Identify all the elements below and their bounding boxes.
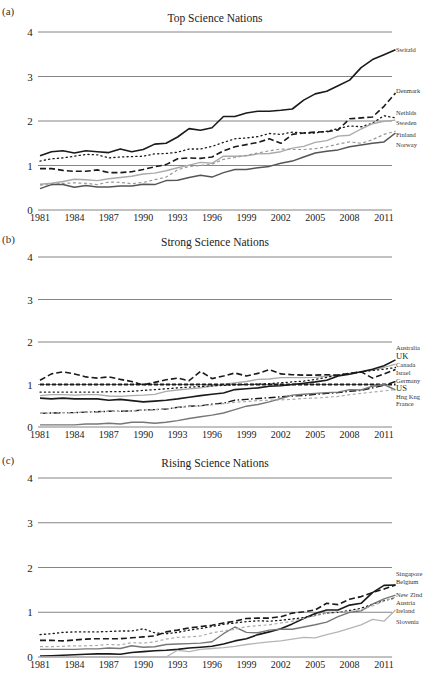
series-label: Denmark (396, 87, 421, 94)
x-tick-label: 2005 (305, 659, 325, 670)
y-tick-label: 1 (27, 606, 33, 618)
series-label: Finland (396, 131, 417, 138)
panel-label: (c) (2, 454, 15, 467)
series-label: Sweden (396, 119, 417, 126)
x-tick-label: 2008 (340, 429, 360, 440)
y-tick-label: 4 (27, 472, 33, 484)
x-tick-label: 2008 (340, 212, 360, 223)
x-tick-label: 1987 (99, 429, 119, 440)
panel-title: Strong Science Nations (161, 236, 269, 249)
x-tick-label: 1996 (202, 212, 222, 223)
panel-title: Top Science Nations (167, 12, 263, 25)
panel-label: (a) (2, 5, 15, 18)
y-tick-label: 4 (27, 251, 33, 263)
x-tick-label: 1999 (236, 212, 256, 223)
y-tick-label: 1 (27, 160, 33, 172)
x-tick-label: 1984 (64, 212, 84, 223)
series-label: Ireland (396, 607, 415, 614)
x-tick-label: 1990 (133, 429, 153, 440)
y-tick-label: 1 (27, 379, 33, 391)
x-tick-label: 2011 (374, 429, 394, 440)
series-label: Austria (396, 599, 415, 606)
series-line-germany (40, 382, 396, 414)
series-label: France (396, 400, 414, 407)
series-label: Singapore (396, 570, 422, 577)
x-tick-label: 2005 (305, 212, 325, 223)
y-tick-label: 3 (27, 517, 33, 529)
x-tick-label: 1987 (99, 659, 119, 670)
series-label: Israel (396, 369, 411, 376)
series-label: Australia (396, 344, 420, 351)
x-tick-label: 1990 (133, 212, 153, 223)
series-label: Canada (396, 361, 416, 368)
x-tick-label: 1993 (168, 429, 188, 440)
x-tick-label: 1993 (168, 659, 188, 670)
y-tick-label: 2 (27, 336, 33, 348)
panel-a: (a) Top Science Nations 0123419811984198… (2, 5, 421, 223)
figure-canvas: (a) Top Science Nations 0123419811984198… (0, 0, 436, 689)
x-tick-label: 2011 (374, 212, 394, 223)
series-line-finland (40, 131, 396, 185)
series-label: Hng Kng (396, 393, 421, 400)
series-line-ireland (40, 597, 396, 647)
x-tick-label: 1987 (99, 212, 119, 223)
y-tick-label: 4 (27, 26, 33, 38)
x-tick-label: 2002 (271, 659, 291, 670)
series-label: UK (396, 351, 409, 361)
x-tick-label: 1984 (64, 429, 84, 440)
y-tick-label: 2 (27, 562, 33, 574)
x-tick-label: 1984 (64, 659, 84, 670)
series-line-canada (40, 368, 396, 393)
series-label: Switzld (396, 46, 417, 53)
panel-title: Rising Science Nations (161, 457, 269, 470)
x-tick-label: 2011 (374, 659, 394, 670)
panel-label: (b) (2, 233, 15, 246)
x-tick-label: 1996 (202, 429, 222, 440)
series-line-israel (40, 370, 396, 385)
series-label: Belgium (396, 578, 418, 585)
series-line-singapore (40, 585, 396, 656)
series-line-denmark (40, 93, 396, 173)
x-tick-label: 1990 (133, 659, 153, 670)
x-tick-label: 1981 (30, 212, 50, 223)
x-tick-label: 1993 (168, 212, 188, 223)
series-label: US (396, 383, 407, 393)
y-tick-label: 2 (27, 115, 33, 127)
y-tick-label: 3 (27, 71, 33, 83)
series-label: Nethlds (396, 109, 417, 116)
x-tick-label: 1999 (236, 659, 256, 670)
x-tick-label: 2005 (305, 429, 325, 440)
x-tick-label: 1981 (30, 429, 50, 440)
series-label: Slovenia (396, 618, 419, 625)
x-tick-label: 2002 (271, 212, 291, 223)
x-tick-label: 2002 (271, 429, 291, 440)
series-label: New Zlnd (396, 591, 423, 598)
series-line-slovenia (40, 610, 396, 657)
x-tick-label: 1996 (202, 659, 222, 670)
series-label: Norway (396, 141, 418, 148)
x-tick-label: 1981 (30, 659, 50, 670)
x-tick-label: 1999 (236, 429, 256, 440)
x-tick-label: 2008 (340, 659, 360, 670)
panel-c: (c) Rising Science Nations 0123419811984… (2, 454, 423, 670)
series-line-switzld (40, 50, 396, 156)
y-tick-label: 3 (27, 294, 33, 306)
panel-b: (b) Strong Science Nations 0123419811984… (2, 233, 421, 440)
